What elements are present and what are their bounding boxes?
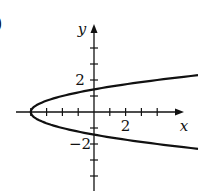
y-axis-arrow-icon — [91, 24, 98, 33]
x-axis-arrow-icon — [175, 109, 184, 116]
part-label: ) — [0, 14, 2, 33]
y-axis-label: y — [77, 20, 87, 38]
axes — [16, 24, 184, 191]
plot-area: 22−2xy — [0, 0, 211, 191]
y-tick-label: −2 — [69, 135, 91, 153]
x-tick-label: 2 — [121, 117, 131, 135]
x-axis-label: x — [180, 117, 189, 135]
graph-figure: ) 22−2xy — [0, 0, 211, 191]
y-tick-label: 2 — [75, 71, 85, 89]
